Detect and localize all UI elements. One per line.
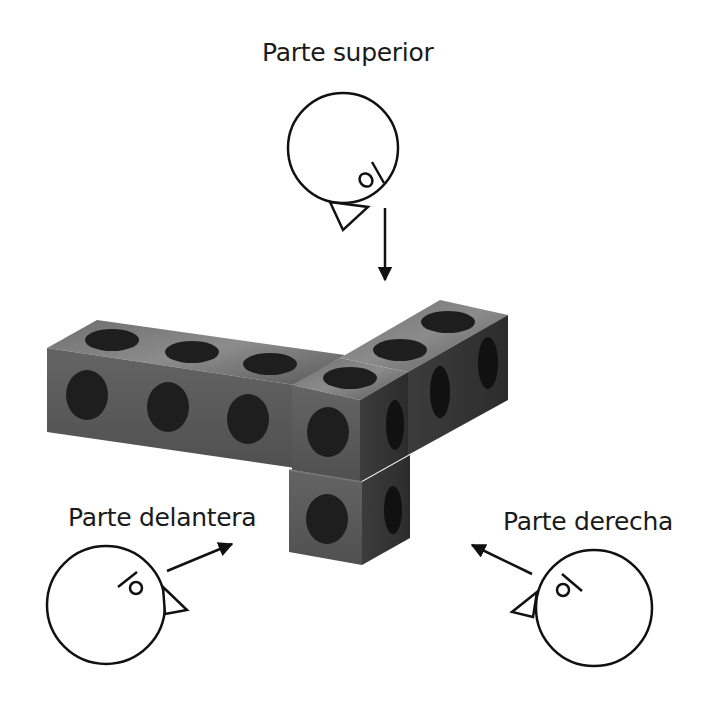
label-front-view: Parte delantera (68, 503, 256, 532)
top-viewer-icon (288, 93, 398, 230)
label-top-view: Parte superior (262, 38, 433, 67)
corner-cube (292, 358, 408, 482)
cube-diagram (0, 0, 718, 715)
front-arrow-icon (167, 544, 232, 571)
label-right-view: Parte derecha (503, 507, 673, 536)
right-arrow-icon (472, 545, 532, 574)
front-viewer-icon (47, 546, 187, 664)
right-viewer-icon (512, 550, 652, 666)
